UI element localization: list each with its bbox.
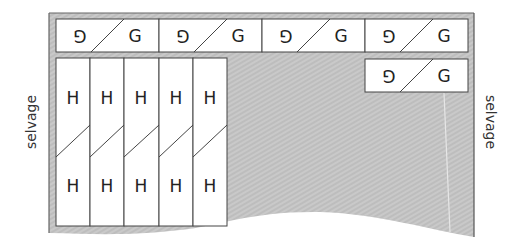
g-piece: G G (159, 19, 262, 52)
h-piece: H H (90, 58, 124, 226)
g-piece: G G (365, 59, 468, 92)
g-label-flipped: G (382, 26, 395, 46)
g-label: G (437, 66, 450, 86)
h-piece: H H (193, 58, 227, 226)
h-piece: H H (159, 58, 193, 226)
h-label: H (101, 88, 114, 108)
g-label: G (437, 26, 450, 46)
h-label: H (204, 176, 217, 196)
g-piece-row-second: G G (365, 59, 468, 92)
g-label: G (334, 26, 347, 46)
h-label: H (135, 88, 148, 108)
g-label-flipped: G (176, 26, 189, 46)
g-piece: G G (262, 19, 365, 52)
h-label: H (67, 176, 80, 196)
selvage-label-right: selvage (483, 95, 499, 149)
g-label-flipped: G (279, 26, 292, 46)
g-label: G (128, 26, 141, 46)
h-piece: H H (124, 58, 159, 226)
g-piece: G G (365, 19, 468, 52)
h-label: H (170, 176, 183, 196)
h-piece: H H (56, 58, 90, 226)
g-piece-row-top: G G G G G G G G (56, 19, 468, 52)
h-label: H (170, 88, 183, 108)
h-label: H (67, 88, 80, 108)
g-piece: G G (56, 19, 159, 52)
h-label: H (101, 176, 114, 196)
g-label: G (231, 26, 244, 46)
g-label-flipped: G (73, 26, 86, 46)
g-label-flipped: G (382, 66, 395, 86)
selvage-label-left: selvage (23, 95, 39, 149)
cutting-layout-diagram: G G G G G G G G G G (0, 0, 515, 250)
h-label: H (204, 88, 217, 108)
h-piece-columns: H H H H H H H H H H (56, 58, 227, 226)
h-label: H (135, 176, 148, 196)
